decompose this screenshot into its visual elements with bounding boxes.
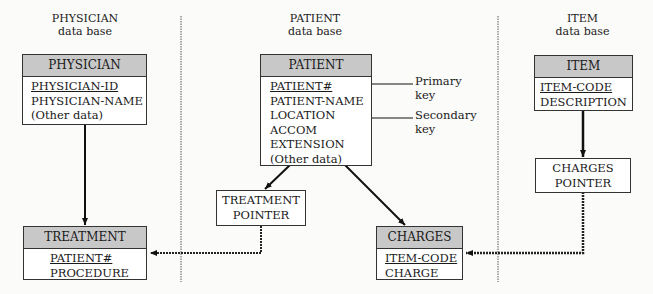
treatment-pointer-box: TREATMENT POINTER [216,190,306,226]
entity-header: ITEM [535,56,632,78]
entity-field: DESCRIPTION [540,95,626,110]
entity-field: PATIENT-NAME [270,94,365,109]
entity-field: ACCOM [270,123,365,138]
entity-header: CHARGES [377,227,462,249]
primary-key-annotation: Primary key [415,74,462,102]
treatment-entity: TREATMENT PATIENT# PROCEDURE [23,226,147,280]
pointer-label: CHARGES [536,161,630,176]
pointer-label: TREATMENT [217,193,305,208]
annotation-text: Primary [415,74,462,88]
entity-field: EXTENSION [270,137,365,152]
entity-header: PATIENT [261,55,371,77]
entity-header: PHYSICIAN [23,55,146,77]
charges-pointer-box: CHARGES POINTER [535,158,631,193]
pointer-label: POINTER [536,176,630,191]
item-entity: ITEM ITEM-CODE DESCRIPTION [534,55,633,111]
annotation-text: key [415,88,462,102]
entity-field: (Other data) [31,108,140,123]
primary-key-field: PATIENT# [50,251,140,266]
entity-field: PHYSICIAN-NAME [31,94,140,109]
charges-entity: CHARGES ITEM-CODE CHARGE [376,226,463,280]
entity-field: CHARGE [385,266,456,281]
primary-key-field: PHYSICIAN-ID [31,79,140,94]
physician-entity: PHYSICIAN PHYSICIAN-ID PHYSICIAN-NAME (O… [22,54,147,125]
primary-key-field: PATIENT# [270,79,365,94]
entity-header: TREATMENT [24,227,146,249]
secondary-key-annotation: Secondary key [415,108,477,136]
entity-field: (Other data) [270,152,365,167]
primary-key-field: ITEM-CODE [540,80,626,95]
pointer-label: POINTER [217,208,305,223]
patient-entity: PATIENT PATIENT# PATIENT-NAME LOCATION A… [260,54,372,166]
secondary-key-field: LOCATION [270,108,365,123]
primary-key-field: ITEM-CODE [385,251,456,266]
annotation-text: Secondary [415,108,477,122]
entity-field: PROCEDURE [50,266,140,281]
annotation-text: key [415,122,477,136]
